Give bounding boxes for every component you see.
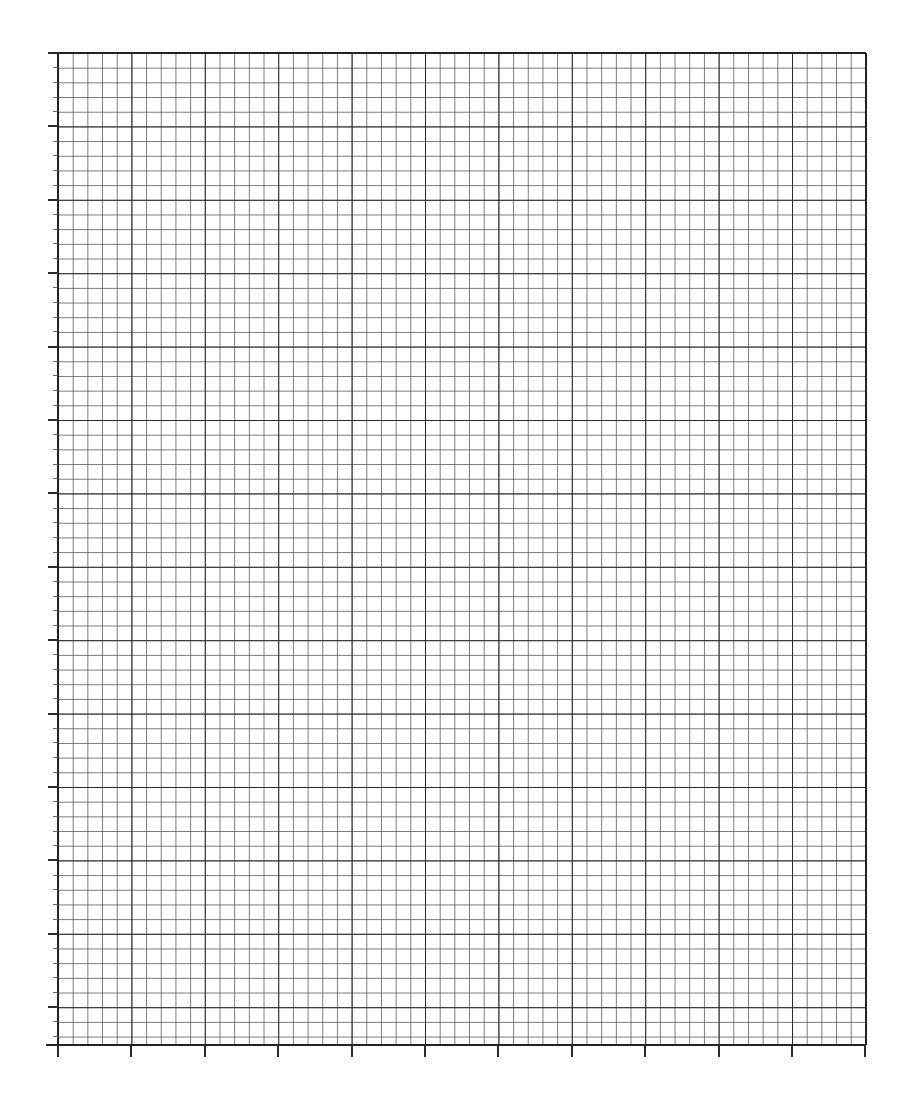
y-axis-major-ticks: [48, 53, 58, 1007]
grid-body: [58, 53, 866, 1045]
graph-paper-plate: [58, 53, 866, 1045]
major-grid-fill: [58, 53, 866, 1045]
x-axis-major-ticks: [58, 1045, 865, 1057]
graph-paper-grid: [58, 53, 866, 1045]
graph-paper-page: [0, 0, 905, 1100]
